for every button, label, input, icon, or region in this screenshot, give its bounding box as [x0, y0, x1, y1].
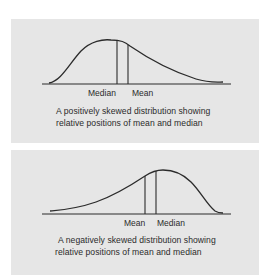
positive-skew-panel: Median Mean A positively skewed distribu…: [11, 19, 259, 143]
distribution-curve: [49, 40, 223, 83]
mean-label: Mean: [124, 218, 145, 228]
caption-line-1: A positively skewed distribution showing: [56, 105, 210, 117]
caption-line-2: relative positions of mean and median: [56, 117, 203, 129]
median-label: Median: [88, 88, 116, 98]
negative-skew-panel: Mean Median A negatively skewed distribu…: [11, 150, 259, 275]
caption-line-1: A negatively skewed distribution showing: [58, 234, 216, 246]
caption-line-2: relative positions of mean and median: [55, 246, 202, 258]
mean-label: Mean: [132, 88, 153, 98]
distribution-curve: [50, 170, 223, 213]
median-label: Median: [157, 218, 185, 228]
